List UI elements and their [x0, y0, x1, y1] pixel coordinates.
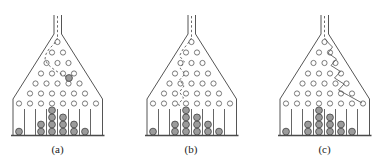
peg [150, 101, 155, 106]
panel-label: (c) [318, 143, 330, 156]
peg [172, 71, 177, 76]
peg [33, 81, 38, 86]
stored-ball [327, 121, 334, 128]
stored-ball [60, 114, 67, 121]
board-wall-right [195, 15, 236, 135]
peg [77, 81, 82, 86]
stored-ball [193, 128, 200, 135]
peg [294, 91, 299, 96]
peg [283, 101, 288, 106]
stored-ball [171, 121, 178, 128]
peg [311, 81, 316, 86]
peg [161, 91, 166, 96]
stored-ball [60, 128, 67, 135]
peg [305, 91, 310, 96]
stored-ball [71, 121, 78, 128]
peg [27, 91, 32, 96]
peg [194, 71, 199, 76]
peg [49, 50, 54, 55]
stored-ball [204, 121, 211, 128]
stored-ball [349, 128, 356, 135]
peg [316, 101, 321, 106]
galton-board-drawing-a [4, 2, 111, 142]
board-wall-left [280, 15, 321, 135]
stored-ball [193, 121, 200, 128]
panel-label: (a) [51, 143, 63, 156]
peg [44, 81, 49, 86]
stored-ball [305, 121, 312, 128]
peg [327, 71, 332, 76]
peg [71, 71, 76, 76]
peg [349, 91, 354, 96]
peg [199, 60, 204, 65]
peg [322, 81, 327, 86]
peg [316, 91, 321, 96]
stored-ball [49, 128, 56, 135]
peg [38, 71, 43, 76]
peg [305, 101, 310, 106]
peg [82, 101, 87, 106]
peg [194, 91, 199, 96]
panel-c: (c) [271, 2, 378, 156]
peg [316, 71, 321, 76]
panel-row: (a) (b) (c) [0, 0, 382, 156]
panel-label: (b) [185, 143, 198, 156]
peg [55, 39, 60, 44]
peg [55, 60, 60, 65]
stored-ball [171, 128, 178, 135]
peg [166, 81, 171, 86]
peg [60, 91, 65, 96]
peg [38, 91, 43, 96]
peg [205, 91, 210, 96]
peg [333, 81, 338, 86]
peg [188, 39, 193, 44]
peg [194, 101, 199, 106]
board-wall-left [147, 15, 188, 135]
stored-ball [316, 128, 323, 135]
stored-ball [149, 128, 156, 135]
peg [82, 91, 87, 96]
peg [55, 81, 60, 86]
figure-galton-board: (a) (b) (c) [0, 0, 382, 162]
peg [216, 91, 221, 96]
galton-board-drawing-b [138, 2, 245, 142]
peg [311, 60, 316, 65]
peg [27, 101, 32, 106]
stored-ball [215, 128, 222, 135]
stored-ball [38, 121, 45, 128]
peg [188, 81, 193, 86]
peg [305, 71, 310, 76]
peg [49, 91, 54, 96]
falling-ball [66, 75, 73, 82]
stored-ball [182, 128, 189, 135]
stored-ball [283, 128, 290, 135]
stored-ball [182, 107, 189, 114]
stored-ball [327, 114, 334, 121]
peg [300, 81, 305, 86]
peg [294, 101, 299, 106]
peg [316, 50, 321, 55]
stored-ball [305, 128, 312, 135]
peg [349, 101, 354, 106]
peg [38, 101, 43, 106]
peg [338, 101, 343, 106]
stored-ball [182, 114, 189, 121]
peg [205, 101, 210, 106]
peg [188, 60, 193, 65]
peg [327, 101, 332, 106]
peg [194, 50, 199, 55]
peg [360, 101, 365, 106]
peg [16, 101, 21, 106]
peg [60, 50, 65, 55]
stored-ball [49, 107, 56, 114]
peg [93, 101, 98, 106]
peg [49, 101, 54, 106]
stored-ball [60, 121, 67, 128]
stored-ball [16, 128, 23, 135]
stored-ball [316, 121, 323, 128]
peg [49, 71, 54, 76]
peg [71, 91, 76, 96]
peg [183, 91, 188, 96]
peg [227, 101, 232, 106]
peg [66, 60, 71, 65]
